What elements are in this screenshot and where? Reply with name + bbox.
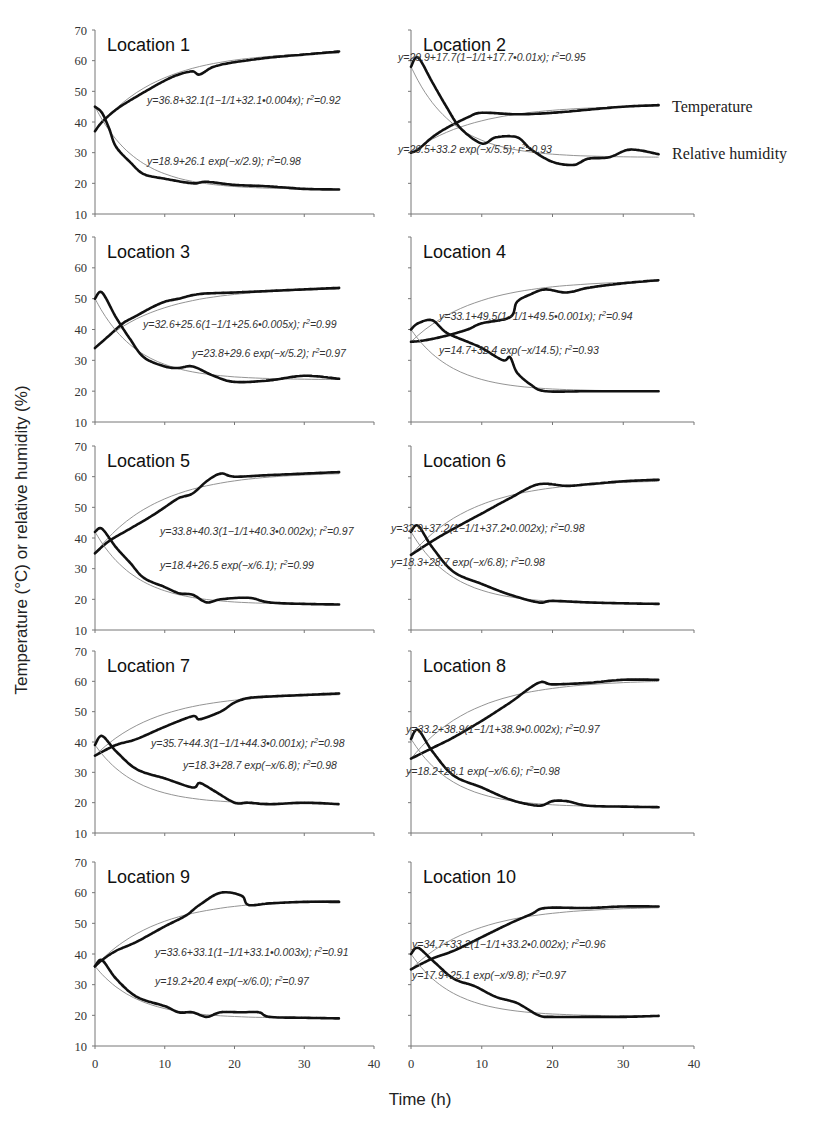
humidity-fit-equation: y=23.8+29.6 exp(−x/5.2); r2=0.97: [191, 347, 347, 359]
panel-location-5: 10203040506070Location 5y=33.8+40.3(1−1/…: [75, 440, 375, 638]
panel-title: Location 6: [423, 451, 506, 471]
humidity-fit-curve: [95, 745, 339, 804]
x-tick-label: 30: [617, 1057, 630, 1071]
y-tick-label: 40: [75, 323, 88, 337]
small-multiples-chart: 10203040506070Location 1y=36.8+32.1(1−1/…: [0, 0, 839, 1131]
y-tick-label: 30: [75, 978, 88, 992]
humidity-data-line: [95, 107, 339, 190]
humidity-fit-equation: y=18.3+28.7 exp(−x/6.8); r2=0.98: [182, 759, 337, 771]
temperature-fit-equation: y=33.8+40.3(1−1/1+40.3•0.002x); r2=0.97: [159, 525, 355, 537]
y-tick-label: 40: [75, 532, 88, 546]
humidity-fit-equation: y=18.3+28.7 exp(−x/6.8); r2=0.98: [390, 556, 545, 568]
temperature-data-line: [411, 480, 659, 555]
y-tick-label: 60: [75, 470, 88, 484]
x-tick-label: 20: [546, 1057, 559, 1071]
y-tick-label: 10: [75, 624, 88, 638]
panel-title: Location 8: [423, 656, 506, 676]
y-tick-label: 70: [75, 645, 88, 659]
temperature-fit-equation: y=32.9+37.2(1−1/1+37.2•0.002x); r2=0.98: [390, 522, 585, 534]
y-tick-label: 50: [75, 85, 88, 99]
humidity-fit-equation: y=18.2+28.1 exp(−x/6.6); r2=0.98: [405, 765, 560, 777]
y-tick-label: 70: [75, 856, 88, 870]
humidity-fit-equation: y=19.2+20.4 exp(−x/6.0); r2=0.97: [154, 975, 310, 987]
temperature-fit-equation: y=34.7+33.2(1−1/1+33.2•0.002x); r2=0.96: [411, 938, 606, 950]
x-tick-label: 20: [228, 1057, 241, 1071]
x-tick-label: 40: [688, 1057, 701, 1071]
temperature-fit-equation: y=33.1+49.5(1−1/1+49.5•0.001x); r2=0.94: [438, 310, 633, 322]
panel-location-10: 010203040Location 10y=34.7+33.2(1−1/1+33…: [408, 862, 700, 1071]
legend-temperature: Temperature: [672, 98, 753, 116]
temperature-data-line: [95, 472, 339, 553]
humidity-fit-equation: y=29.5+33.2 exp(−x/5.5); r2=0.93: [397, 143, 552, 155]
x-tick-label: 0: [408, 1057, 414, 1071]
temperature-fit-equation: y=33.6+33.1(1−1/1+33.1•0.003x); r2=0.91: [154, 946, 349, 958]
temperature-fit-curve: [411, 681, 659, 758]
legend-relative-humidity: Relative humidity: [672, 145, 787, 163]
humidity-fit-equation: y=18.4+26.5 exp(−x/6.1); r2=0.99: [159, 559, 314, 571]
y-tick-label: 40: [75, 736, 88, 750]
humidity-fit-equation: y=14.7+32.4 exp(−x/14.5); r2=0.93: [438, 344, 599, 356]
y-tick-label: 70: [75, 24, 88, 38]
y-tick-label: 30: [75, 146, 88, 160]
y-tick-label: 20: [75, 385, 88, 399]
y-tick-label: 40: [75, 116, 88, 130]
y-tick-label: 50: [75, 705, 88, 719]
panel-location-8: Location 8y=33.2+38.9(1−1/1+38.9•0.002x)…: [405, 651, 694, 836]
y-tick-label: 30: [75, 354, 88, 368]
panel-location-6: Location 6y=32.9+37.2(1−1/1+37.2•0.002x)…: [390, 446, 694, 633]
panel-location-1: 10203040506070Location 1y=36.8+32.1(1−1/…: [75, 24, 375, 222]
x-tick-label: 30: [298, 1057, 311, 1071]
y-tick-label: 50: [75, 292, 88, 306]
y-tick-label: 20: [75, 796, 88, 810]
panel-title: Location 5: [107, 451, 190, 471]
panel-title: Location 1: [107, 35, 190, 55]
temperature-fit-equation: y=33.2+38.9(1−1/1+38.9•0.002x); r2=0.97: [405, 723, 601, 735]
panel-title: Location 3: [107, 242, 190, 262]
x-tick-label: 10: [476, 1057, 489, 1071]
humidity-fit-curve: [411, 954, 659, 1016]
panel-title: Location 10: [423, 867, 516, 887]
humidity-fit-curve: [411, 330, 659, 392]
panel-location-9: 10203040506070010203040Location 9y=33.6+…: [75, 856, 381, 1072]
figure: 10203040506070Location 1y=36.8+32.1(1−1/…: [0, 0, 839, 1131]
panel-location-7: 10203040506070Location 7y=35.7+44.3(1−1/…: [75, 645, 375, 841]
panel-location-4: Location 4y=33.1+49.5(1−1/1+49.5•0.001x)…: [408, 237, 694, 425]
panel-title: Location 9: [107, 867, 190, 887]
y-tick-label: 50: [75, 501, 88, 515]
y-tick-label: 60: [75, 261, 88, 275]
x-tick-label: 0: [92, 1057, 98, 1071]
y-tick-label: 60: [75, 675, 88, 689]
y-tick-label: 20: [75, 177, 88, 191]
y-tick-label: 10: [75, 416, 88, 430]
temperature-fit-equation: y=29.9+17.7(1−1/1+17.7•0.01x); r2=0.95: [397, 51, 586, 63]
humidity-data-line: [95, 292, 339, 382]
y-tick-label: 70: [75, 440, 88, 454]
y-tick-label: 10: [75, 208, 88, 222]
y-tick-label: 50: [75, 917, 88, 931]
y-axis-label: Temperature (°C) or relative humidity (%…: [12, 260, 36, 820]
humidity-fit-curve: [95, 107, 339, 190]
panel-title: Location 7: [107, 656, 190, 676]
temperature-fit-equation: y=36.8+32.1(1−1/1+32.1•0.004x); r2=0.92: [146, 94, 341, 106]
temperature-fit-equation: y=35.7+44.3(1−1/1+44.3•0.001x); r2=0.98: [150, 737, 345, 749]
temperature-fit-curve: [95, 474, 339, 554]
x-tick-label: 40: [368, 1057, 381, 1071]
panel-location-2: Location 2y=29.9+17.7(1−1/1+17.7•0.01x);…: [397, 30, 787, 217]
temperature-fit-curve: [411, 481, 659, 555]
y-tick-label: 20: [75, 1009, 88, 1023]
y-tick-label: 20: [75, 593, 88, 607]
humidity-fit-equation: y=18.9+26.1 exp(−x/2.9); r2=0.98: [146, 155, 301, 167]
panel-location-3: 10203040506070Location 3y=32.6+25.6(1−1/…: [75, 231, 375, 430]
humidity-data-line: [411, 948, 659, 1017]
humidity-data-line: [95, 960, 339, 1019]
y-tick-label: 30: [75, 766, 88, 780]
y-tick-label: 40: [75, 948, 88, 962]
x-axis-label: Time (h): [330, 1090, 510, 1110]
y-tick-label: 10: [75, 827, 88, 841]
y-tick-label: 60: [75, 54, 88, 68]
y-tick-label: 70: [75, 231, 88, 245]
y-tick-label: 10: [75, 1040, 88, 1054]
x-tick-label: 10: [159, 1057, 172, 1071]
temperature-fit-equation: y=32.6+25.6(1−1/1+25.6•0.005x); r2=0.99: [142, 318, 337, 330]
panel-title: Location 4: [423, 242, 506, 262]
